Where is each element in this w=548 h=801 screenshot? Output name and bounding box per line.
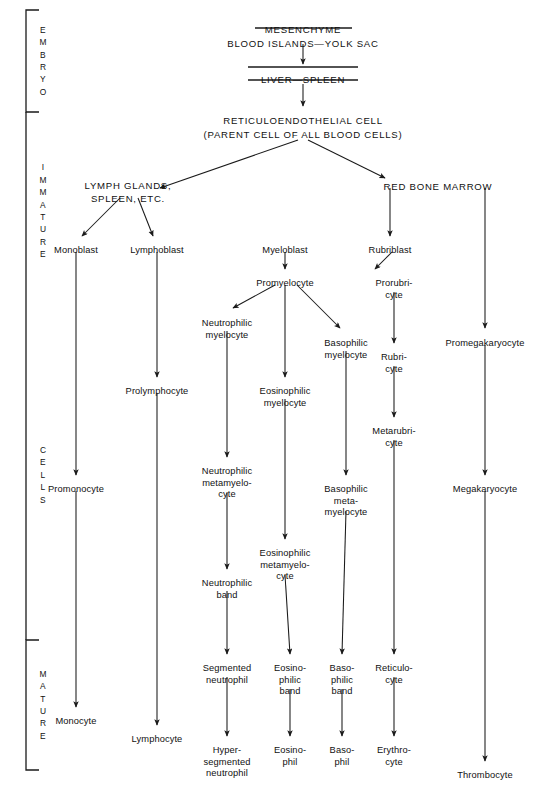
node-promegakaryocyte: Promegakaryocyte xyxy=(445,338,524,350)
stage-label-immature: I M M A T U R E xyxy=(39,161,46,260)
node-neutrophilic-band: Neutrophilic band xyxy=(202,578,252,601)
node-megakaryocyte: Megakaryocyte xyxy=(453,484,517,496)
node-prolymphocyte: Prolymphocyte xyxy=(126,386,189,398)
baso-metamyelo-to-band xyxy=(342,511,346,654)
node-reticulo-cell: RETICULOENDOTHELIAL CELL xyxy=(223,115,382,128)
node-liver-spleen: LIVER—SPLEEN xyxy=(261,74,345,87)
node-basophilic-myelocyte: Basophilic myelocyte xyxy=(324,338,367,361)
node-mesenchyme: MESENCHYME xyxy=(265,24,341,37)
node-myeloblast: Myeloblast xyxy=(262,245,307,257)
node-rubriblast: Rubriblast xyxy=(369,245,412,257)
node-eosinophilic-band: Eosino- philic band xyxy=(274,663,306,698)
node-lymphocyte: Lymphocyte xyxy=(132,734,183,746)
node-monoblast: Monoblast xyxy=(54,245,98,257)
node-hypersegmented-neutrophil: Hyper- segmented neutrophil xyxy=(204,745,251,780)
node-eosinophil: Eosino- phil xyxy=(274,745,306,768)
reticulo-to-lymph xyxy=(160,140,298,188)
node-reticulocyte: Reticulo- cyte xyxy=(375,663,413,686)
node-basophil: Baso- phil xyxy=(330,745,355,768)
node-blood-islands: BLOOD ISLANDS—YOLK SAC xyxy=(227,38,378,51)
node-basophilic-band: Baso- philic band xyxy=(330,663,355,698)
node-rubricyte: Rubri- cyte xyxy=(381,352,407,375)
node-promyelocyte: Promyelocyte xyxy=(256,278,314,290)
promyelocyte-to-baso-myelo xyxy=(297,285,340,328)
stage-label-embryo: E M B R Y O xyxy=(39,24,46,98)
eosino-metamyelo-to-band xyxy=(285,575,290,654)
node-metarubricyte: Metarubri- cyte xyxy=(372,426,415,449)
node-prorubricyte: Prorubri- cyte xyxy=(375,278,412,301)
stage-brackets xyxy=(26,10,39,770)
node-segmented-neutrophil: Segmented neutrophil xyxy=(203,663,251,686)
node-thrombocyte: Thrombocyte xyxy=(457,770,512,782)
node-eosinophilic-metamyelo: Eosinophilic metamyelo- cyte xyxy=(260,548,311,583)
stage-label-cells: C E L L S xyxy=(40,444,46,506)
node-red-bone-marrow: RED BONE MARROW xyxy=(384,181,493,194)
stage-bracket-mature xyxy=(26,640,39,770)
reticulo-to-marrow xyxy=(308,140,385,178)
node-erythrocyte: Erythro- cyte xyxy=(377,745,411,768)
node-basophilic-metamyelo: Basophilic meta- myelocyte xyxy=(324,484,367,519)
node-parent-cell: (PARENT CELL OF ALL BLOOD CELLS) xyxy=(204,129,403,142)
node-monocyte: Monocyte xyxy=(55,716,96,728)
stage-label-mature: M A T U R E xyxy=(39,668,46,742)
blood-cell-development-diagram: MESENCHYMEBLOOD ISLANDS—YOLK SACLIVER—SP… xyxy=(0,0,548,801)
node-lymphoblast: Lymphoblast xyxy=(130,245,183,257)
stage-bracket-embryo xyxy=(26,10,39,112)
node-promonocyte: Promonocyte xyxy=(48,484,104,496)
node-neutrophilic-metamyelo: Neutrophilic metamyelo- cyte xyxy=(202,466,252,501)
node-lymph-glands: LYMPH GLANDS, SPLEEN, ETC. xyxy=(85,180,172,205)
node-neutrophilic-myelocyte: Neutrophilic myelocyte xyxy=(202,318,252,341)
node-eosinophilic-myelocyte: Eosinophilic myelocyte xyxy=(260,386,311,409)
